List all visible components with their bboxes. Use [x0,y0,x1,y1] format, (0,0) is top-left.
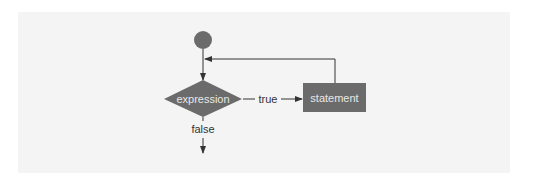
start-node [194,31,212,49]
false-label: false [191,123,214,135]
decision-node: expression [164,80,242,117]
flowchart: expression true statement false [0,0,546,178]
statement-label: statement [310,92,358,104]
statement-node: statement [303,83,366,112]
decision-label: expression [176,93,229,105]
true-label: true [259,93,278,105]
edge-loop-back [205,59,335,83]
